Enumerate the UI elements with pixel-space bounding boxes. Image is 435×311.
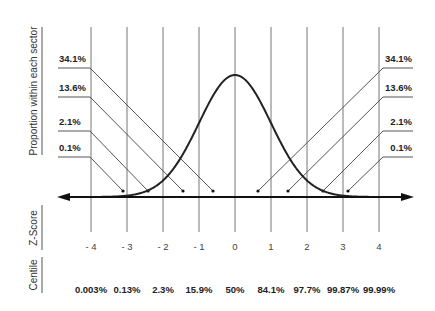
zscore-tick-label: 0 — [232, 241, 237, 252]
leader-dot — [286, 189, 289, 192]
proportion-label: Proportion within each sector — [28, 26, 39, 156]
left-percent-label: 0.1% — [59, 142, 81, 153]
right-percent-label: 0.1% — [390, 142, 412, 153]
left-arrow-icon — [57, 193, 70, 201]
right-arrow-icon — [401, 193, 414, 201]
right-leaders: 34.1%13.6%2.1%0.1% — [256, 53, 413, 193]
centile-value: 15.9% — [186, 284, 213, 295]
leader-dot — [211, 189, 214, 192]
sd-gridlines — [91, 27, 379, 232]
zscore-tick-label: 3 — [340, 241, 345, 252]
leader-dot — [181, 189, 184, 192]
leader-line — [348, 157, 413, 191]
zscore-tick-label: - 4 — [85, 241, 96, 252]
zscore-tick-label: - 1 — [193, 241, 204, 252]
zscore-label: Z-Score — [28, 210, 39, 246]
centile-value: 97.7% — [294, 284, 321, 295]
leader-dot — [346, 189, 349, 192]
left-percent-label: 34.1% — [59, 53, 86, 64]
centile-value: 2.3% — [152, 284, 174, 295]
normal-distribution-diagram: Proportion within each sector Z-Score Ce… — [0, 0, 435, 311]
centile-value: 50% — [225, 284, 245, 295]
centile-value: 99.99% — [363, 284, 396, 295]
centile-label: Centile — [28, 259, 39, 291]
right-percent-label: 2.1% — [390, 116, 412, 127]
left-percent-label: 2.1% — [59, 116, 81, 127]
centile-row: 0.003%0.13%2.3%15.9%50%84.1%97.7%99.87%9… — [75, 284, 396, 295]
zscore-tick-label: - 2 — [157, 241, 168, 252]
zscore-tick-label: 1 — [268, 241, 273, 252]
zscore-tick-label: - 3 — [121, 241, 132, 252]
centile-value: 0.13% — [114, 284, 141, 295]
right-percent-label: 34.1% — [385, 53, 412, 64]
leader-dot — [256, 189, 259, 192]
zscore-tick-label: 4 — [376, 241, 381, 252]
leader-line — [323, 131, 413, 191]
left-percent-label: 13.6% — [59, 82, 86, 93]
zscore-tick-label: 2 — [304, 241, 309, 252]
centile-value: 84.1% — [258, 284, 285, 295]
centile-value: 0.003% — [75, 284, 108, 295]
zscore-row: - 4- 3- 2- 101234 — [85, 241, 381, 252]
leader-dot — [121, 189, 124, 192]
left-leaders: 34.1%13.6%2.1%0.1% — [58, 53, 215, 193]
leader-line — [58, 131, 148, 191]
right-percent-label: 13.6% — [385, 82, 412, 93]
centile-value: 99.87% — [327, 284, 360, 295]
